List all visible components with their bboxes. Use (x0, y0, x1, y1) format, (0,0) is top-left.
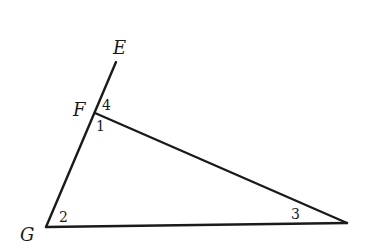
triangle-diagram: E F G 4 1 2 3 (0, 0, 366, 252)
angle-label-3: 3 (291, 206, 300, 222)
angle-label-4: 4 (102, 97, 111, 113)
angle-label-2: 2 (59, 209, 68, 225)
line-f-right-vertex (95, 113, 347, 223)
line-ge (46, 62, 116, 227)
vertex-label-g: G (20, 224, 34, 245)
line-g-right-vertex (46, 223, 347, 227)
vertex-label-f: F (72, 99, 87, 120)
vertex-label-e: E (112, 37, 126, 58)
angle-label-1: 1 (96, 118, 105, 134)
